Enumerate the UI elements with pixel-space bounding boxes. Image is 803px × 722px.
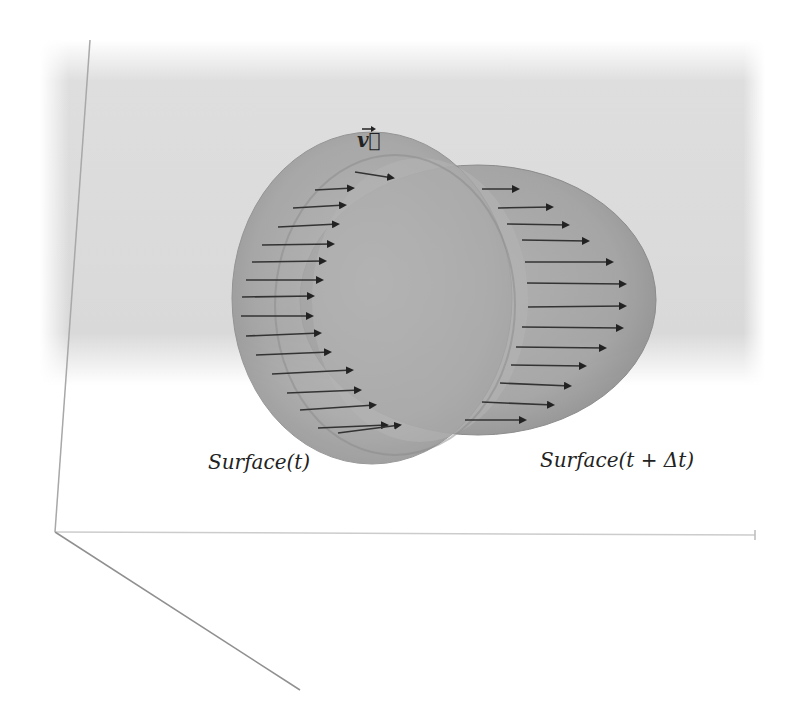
velocity-arrow (511, 365, 585, 366)
diagram-canvas (0, 0, 803, 722)
flux-surface-diagram: v⃗ Surface(t) Surface(t + Δt) (0, 0, 803, 722)
velocity-label: v⃗ (357, 128, 381, 152)
velocity-arrow (527, 283, 625, 284)
velocity-arrow (242, 296, 313, 297)
velocity-arrow (507, 224, 568, 225)
y-axis-line (55, 532, 300, 690)
velocity-arrow (252, 261, 325, 262)
velocity-arrow (262, 244, 333, 245)
velocity-arrow (522, 240, 588, 241)
velocity-arrow (528, 306, 625, 307)
velocity-arrow (516, 347, 605, 348)
surface-t-dt-label: Surface(t + Δt) (540, 448, 694, 472)
surface-t-label: Surface(t) (208, 450, 310, 474)
sphere-overlap-inner (312, 158, 528, 442)
velocity-arrow (498, 207, 552, 208)
velocity-arrow (522, 327, 622, 328)
x-axis-line (55, 532, 755, 535)
